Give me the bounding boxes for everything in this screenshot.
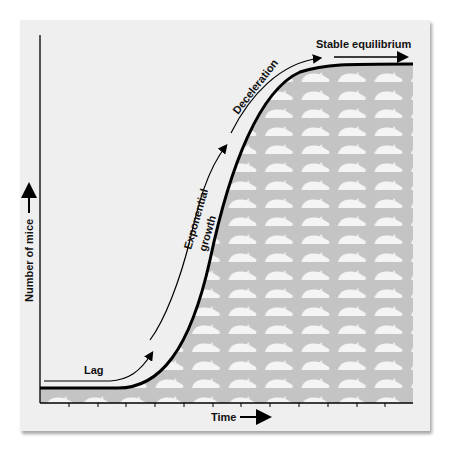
stable-equilibrium-label: Stable equilibrium (316, 38, 412, 50)
lag-label: Lag (84, 364, 104, 376)
y-axis-label: Number of mice (23, 219, 35, 302)
growth-curve-chart: Stable equilibrium Deceleration Exponent… (0, 0, 449, 452)
x-axis-label: Time (211, 411, 236, 423)
mice-fill (40, 60, 413, 403)
